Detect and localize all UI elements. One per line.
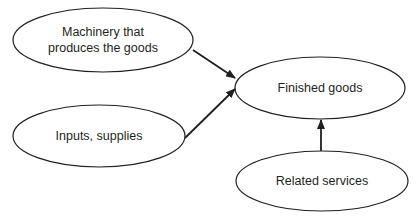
node-finished-goods-label: Finished goods <box>235 57 405 119</box>
node-finished-goods-label-text: Finished goods <box>278 80 363 96</box>
node-inputs-label: Inputs, supplies <box>13 105 185 167</box>
node-machinery-label-line-2: produces the goods <box>48 40 158 56</box>
arrow-inputs-to-finished <box>185 89 235 138</box>
node-inputs-label-text: Inputs, supplies <box>56 128 143 144</box>
node-machinery-label: Machinery that produces the goods <box>13 8 193 72</box>
diagram-canvas: Machinery that produces the goods Inputs… <box>0 0 418 222</box>
node-related-services-label-text: Related services <box>276 173 368 189</box>
node-related-services-label: Related services <box>236 151 408 211</box>
arrow-machinery-to-finished <box>193 50 235 78</box>
node-machinery-label-line-1: Machinery that <box>48 24 158 40</box>
